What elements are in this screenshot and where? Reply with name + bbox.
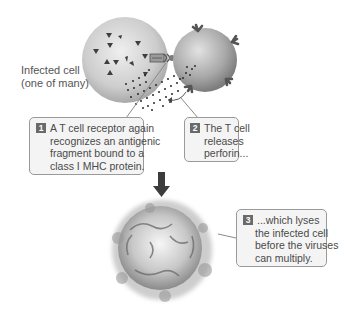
infected-cell-label-line-2: (one of many): [21, 77, 89, 90]
step-2-badge: 2: [190, 123, 200, 133]
step-1-badge: 1: [36, 123, 46, 133]
callout-3-leader: [218, 234, 236, 238]
callout-3: 3...which lyses the infected cell before…: [236, 209, 327, 267]
callout-3-line-1: ...which lyses: [257, 214, 319, 226]
callout-1-line-3: fragment bound to a: [36, 147, 137, 160]
t-cell-icon: [173, 25, 238, 92]
callout-3-line-3: before the viruses: [243, 239, 320, 252]
callout-1-line-4: class I MHC protein.: [36, 160, 137, 173]
callout-1: 1A T cell receptor again recognizes an a…: [29, 117, 144, 175]
callout-3-line-4: can multiply.: [243, 252, 320, 265]
down-arrow-icon: [153, 172, 170, 197]
step-3-badge: 3: [243, 215, 253, 225]
callout-1-line-1: A T cell receptor again: [50, 122, 154, 134]
receptor-complex-icon: [150, 54, 175, 62]
callout-2-line-2: releases: [190, 135, 233, 148]
callout-2-line-1: The T cell: [204, 122, 250, 134]
infected-cell-label: Infected cell (one of many): [21, 64, 89, 90]
callout-2-line-3: perforin...: [190, 147, 233, 160]
callout-2: 2The T cell releases perforin...: [184, 117, 239, 162]
lysed-cell-icon: [112, 200, 212, 302]
infected-cell-label-line-1: Infected cell: [21, 64, 89, 77]
callout-3-line-2: the infected cell: [243, 227, 320, 240]
callout-2-leader: [181, 98, 198, 118]
callout-1-line-2: recognizes an antigenic: [36, 135, 137, 148]
